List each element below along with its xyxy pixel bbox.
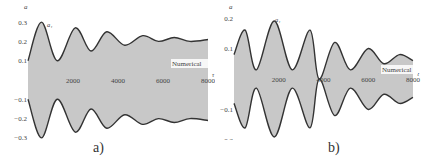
- numerical-annotation: Numerical: [171, 59, 208, 68]
- svg-text:Numerical: Numerical: [172, 60, 202, 68]
- curve-label: a₁: [47, 21, 53, 28]
- y-tick-label: 0.3: [18, 19, 27, 27]
- y-tick-label: −0.3: [14, 134, 27, 140]
- y-tick-label: 0.2: [18, 38, 27, 46]
- y-tick-label: −0.1: [220, 106, 233, 114]
- x-tick-label: 6000: [361, 76, 376, 84]
- panel-label-b: b): [328, 140, 340, 156]
- y-axis-label: a: [24, 3, 28, 11]
- curve-label: a₁: [275, 16, 281, 23]
- plot-b: a0.20.1−0.1−0.22000400060008000τa₁Numeri…: [215, 0, 433, 140]
- panel-label-a: a): [93, 140, 104, 156]
- x-tick-label: 6000: [156, 77, 171, 85]
- x-tick-label: 4000: [317, 76, 332, 84]
- svg-text:Numerical: Numerical: [382, 66, 412, 74]
- y-tick-label: −0.1: [14, 96, 27, 104]
- y-tick-label: −0.2: [14, 115, 27, 123]
- x-tick-label: 2000: [272, 76, 287, 84]
- y-tick-label: 0.1: [18, 57, 27, 65]
- x-tick-label: 2000: [66, 77, 81, 85]
- plot-a: a0.30.20.1−0.1−0.2−0.32000400060008000τa…: [0, 0, 215, 140]
- x-tick-label: 4000: [111, 77, 126, 85]
- y-tick-label: 0.2: [224, 15, 233, 23]
- y-tick-label: −0.2: [220, 137, 233, 141]
- y-tick-label: 0.1: [224, 45, 233, 53]
- figure: a0.30.20.1−0.1−0.2−0.32000400060008000τa…: [0, 0, 433, 163]
- numerical-annotation: Numerical: [381, 65, 418, 74]
- y-axis-label: a: [229, 3, 233, 11]
